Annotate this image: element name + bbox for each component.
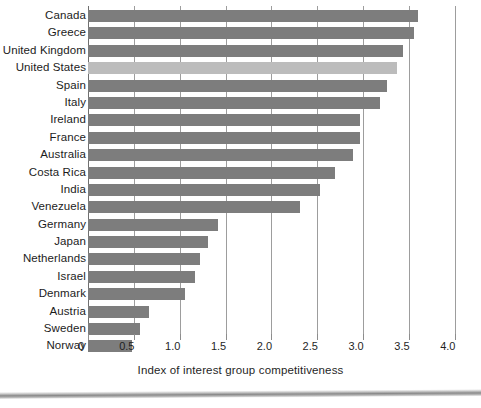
bar-france bbox=[88, 132, 360, 144]
bar-row: Italy bbox=[0, 96, 481, 113]
bar-ireland bbox=[88, 114, 360, 126]
bar-netherlands bbox=[88, 253, 200, 265]
bar-germany bbox=[88, 219, 218, 231]
category-label-ireland: Ireland bbox=[50, 112, 86, 127]
category-label-austria: Austria bbox=[50, 304, 87, 319]
page-edge-artifact bbox=[0, 389, 481, 399]
x-tick-label-4.0: 4.0 bbox=[440, 340, 455, 352]
x-tick-label-2.0: 2.0 bbox=[257, 340, 272, 352]
bar-row: Australia bbox=[0, 148, 481, 165]
x-tick-label-2.5: 2.5 bbox=[303, 340, 318, 352]
x-tick-label-0.5: 0.5 bbox=[119, 340, 134, 352]
bar-denmark bbox=[88, 288, 185, 300]
bar-united-states bbox=[88, 62, 397, 74]
x-tick-label-1.0: 1.0 bbox=[165, 340, 180, 352]
bar-row: Costa Rica bbox=[0, 166, 481, 183]
x-tick-label-3.5: 3.5 bbox=[394, 340, 409, 352]
bar-australia bbox=[88, 149, 353, 161]
bar-row: Canada bbox=[0, 9, 481, 26]
chart-figure: CanadaGreeceUnited KingdomUnited StatesS… bbox=[0, 0, 481, 408]
bar-row: Denmark bbox=[0, 287, 481, 304]
category-label-israel: Israel bbox=[57, 269, 86, 284]
bar-rows: CanadaGreeceUnited KingdomUnited StatesS… bbox=[0, 9, 481, 357]
category-label-germany: Germany bbox=[38, 217, 86, 232]
bar-row: Austria bbox=[0, 305, 481, 322]
bar-row: United Kingdom bbox=[0, 44, 481, 61]
bar-canada bbox=[88, 10, 418, 22]
bar-row: Venezuela bbox=[0, 200, 481, 217]
bar-row: France bbox=[0, 131, 481, 148]
bar-italy bbox=[88, 97, 380, 109]
bar-row: Germany bbox=[0, 218, 481, 235]
bar-row: India bbox=[0, 183, 481, 200]
category-label-canada: Canada bbox=[45, 8, 86, 23]
bar-row: United States bbox=[0, 61, 481, 78]
category-label-denmark: Denmark bbox=[39, 286, 86, 301]
x-tick-label-3.0: 3.0 bbox=[348, 340, 363, 352]
category-label-italy: Italy bbox=[64, 95, 86, 110]
plot-area: CanadaGreeceUnited KingdomUnited StatesS… bbox=[0, 0, 481, 345]
bar-row: Ireland bbox=[0, 113, 481, 130]
category-label-netherlands: Netherlands bbox=[23, 251, 86, 266]
category-label-japan: Japan bbox=[54, 234, 86, 249]
bar-greece bbox=[88, 27, 414, 39]
bar-india bbox=[88, 184, 320, 196]
bar-israel bbox=[88, 271, 195, 283]
bar-united-kingdom bbox=[88, 45, 403, 57]
category-label-united-states: United States bbox=[16, 60, 86, 75]
bar-spain bbox=[88, 80, 387, 92]
x-axis-title: Index of interest group competitiveness bbox=[0, 364, 481, 376]
bar-row: Netherlands bbox=[0, 252, 481, 269]
x-axis: 00.51.01.52.02.53.03.54.0 bbox=[0, 334, 481, 364]
page-margin-below bbox=[0, 399, 481, 408]
bar-austria bbox=[88, 306, 149, 318]
x-tick-mark-0 bbox=[88, 334, 89, 340]
category-label-spain: Spain bbox=[56, 78, 86, 93]
bar-costa-rica bbox=[88, 167, 335, 179]
bar-row: Japan bbox=[0, 235, 481, 252]
x-tick-label-0: 0 bbox=[78, 340, 84, 352]
bar-row: Greece bbox=[0, 26, 481, 43]
bar-row: Spain bbox=[0, 79, 481, 96]
category-label-india: India bbox=[61, 182, 86, 197]
bar-venezuela bbox=[88, 201, 300, 213]
category-label-greece: Greece bbox=[48, 25, 86, 40]
bar-japan bbox=[88, 236, 208, 248]
x-tick-label-1.5: 1.5 bbox=[211, 340, 226, 352]
category-label-united-kingdom: United Kingdom bbox=[3, 43, 86, 58]
category-label-costa-rica: Costa Rica bbox=[29, 165, 86, 180]
category-label-venezuela: Venezuela bbox=[31, 199, 86, 214]
category-label-france: France bbox=[50, 130, 86, 145]
category-label-australia: Australia bbox=[40, 147, 86, 162]
bar-row: Israel bbox=[0, 270, 481, 287]
